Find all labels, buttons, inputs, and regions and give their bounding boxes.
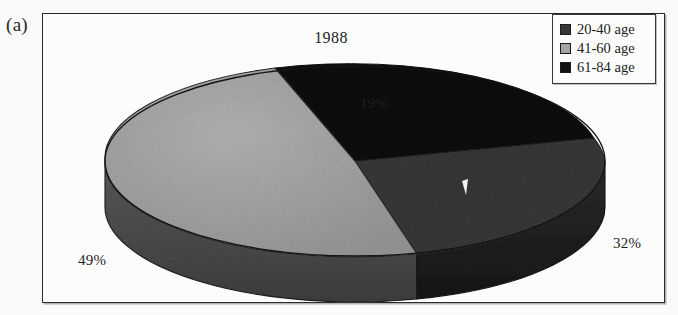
legend-swatch-20-40-icon [560,24,571,35]
legend-swatch-61-84-icon [560,62,571,73]
slice-label-32-percent: 32% [613,235,641,252]
legend-label-20-40: 20-40 age [577,22,635,37]
legend-item-20-40: 20-40 age [560,20,648,39]
legend-label-61-84: 61-84 age [577,60,635,75]
chart-title-text: 1988 [314,29,348,47]
figure-root: (a) 1988 [0,0,678,315]
slice-label-19-percent: 19% [360,95,388,112]
chart-legend: 20-40 age 41-60 age 61-84 age [552,14,656,84]
legend-label-41-60: 41-60 age [577,41,635,56]
legend-item-61-84: 61-84 age [560,58,648,77]
legend-swatch-41-60-icon [560,43,571,54]
slice-label-49-percent: 49% [78,252,106,269]
legend-item-41-60: 41-60 age [560,39,648,58]
